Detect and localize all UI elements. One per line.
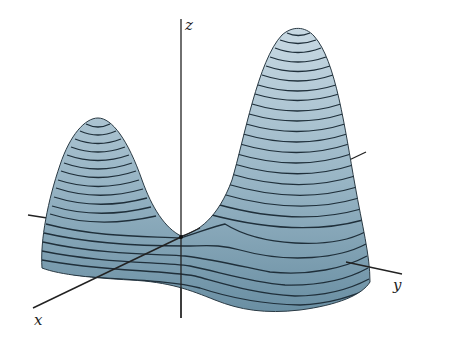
surface-plot-figure: z x y — [0, 0, 460, 342]
z-axis-label: z — [184, 16, 193, 34]
surface — [42, 28, 372, 311]
origin-point — [179, 235, 183, 239]
y-axis-label: y — [392, 276, 402, 294]
x-axis-label: x — [34, 311, 43, 329]
